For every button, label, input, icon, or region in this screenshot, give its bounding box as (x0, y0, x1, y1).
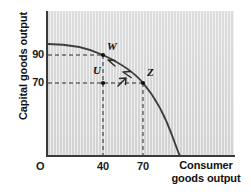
point-Z-marker (141, 81, 145, 85)
y-axis-title: Capital goods output (17, 1, 29, 131)
ppf-chart-figure: 90 70 40 70 O W U Z Capital goods output… (0, 0, 251, 194)
x-axis-title-line2: goods output (162, 172, 250, 185)
x-axis-title-line1: Consumer (162, 159, 250, 172)
x-tick-label-70: 70 (131, 160, 155, 172)
point-label-W: W (107, 40, 117, 52)
origin-label: O (36, 160, 45, 172)
arrow-toward-W-icon (108, 60, 115, 66)
arrow-mid-curve-icon (123, 72, 131, 78)
x-tick-label-40: 40 (91, 160, 115, 172)
x-axis-title: Consumer goods output (162, 159, 250, 185)
point-U-marker (101, 81, 105, 85)
point-W-marker (101, 53, 105, 57)
arrow-from-U-icon (118, 78, 126, 86)
point-label-Z: Z (147, 66, 154, 78)
point-label-U: U (93, 64, 101, 76)
